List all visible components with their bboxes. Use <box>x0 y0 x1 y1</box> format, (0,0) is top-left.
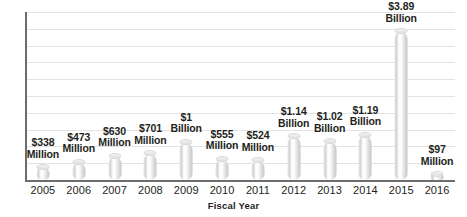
bar[interactable] <box>108 156 121 180</box>
bar-value-amount: $1.19 <box>350 105 381 117</box>
bar-value-amount: $1.14 <box>278 106 309 118</box>
bar-value-label: $701Million <box>134 123 167 146</box>
bar-value-unit: Billion <box>278 118 309 130</box>
x-tick-label: 2015 <box>384 184 418 196</box>
bar-value-unit: Billion <box>171 123 202 135</box>
x-axis-tick-labels: 2005200620072008200920102011201220132014… <box>25 184 455 200</box>
bar[interactable] <box>323 141 336 180</box>
bar-value-amount: $3.89 <box>386 1 417 13</box>
bar-value-label: $338Million <box>27 137 60 160</box>
bar-value-label: $473Million <box>62 132 95 155</box>
bar-group[interactable]: $473Million <box>62 12 96 180</box>
bar-value-amount: $1 <box>171 112 202 124</box>
y-axis-line <box>25 12 27 181</box>
bar-group[interactable]: $1.14Billion <box>277 12 311 180</box>
bar[interactable] <box>144 153 157 180</box>
bar-value-unit: Billion <box>314 123 345 135</box>
bar-group[interactable]: $1Billion <box>169 12 203 180</box>
bar-value-label: $3.89Billion <box>386 1 417 24</box>
bar-value-amount: $1.02 <box>314 111 345 123</box>
bar-value-label: $1.19Billion <box>350 105 381 128</box>
bar-value-amount: $630 <box>98 126 131 138</box>
bar-group[interactable]: $524Million <box>241 12 275 180</box>
bar-value-amount: $473 <box>62 132 95 144</box>
bar-value-unit: Million <box>134 135 167 147</box>
x-tick-label: 2012 <box>277 184 311 196</box>
bar-value-amount: $338 <box>27 137 60 149</box>
bar-value-label: $1Billion <box>171 112 202 135</box>
bar[interactable] <box>216 159 229 180</box>
bar[interactable] <box>359 135 372 180</box>
bar-group[interactable]: $555Million <box>205 12 239 180</box>
bar[interactable] <box>395 31 408 180</box>
x-tick-label: 2011 <box>241 184 275 196</box>
x-axis-title: Fiscal Year <box>0 200 467 211</box>
bar-value-label: $1.14Billion <box>278 106 309 129</box>
bar-value-label: $555Million <box>206 129 239 152</box>
bar[interactable] <box>251 160 264 180</box>
bar-chart: $338Million$473Million$630Million$701Mil… <box>0 0 467 217</box>
bar-value-label: $1.02Billion <box>314 111 345 134</box>
bar-group[interactable]: $1.19Billion <box>348 12 382 180</box>
bar-value-unit: Million <box>98 137 131 149</box>
bar-value-unit: Million <box>421 156 454 168</box>
bar-group[interactable]: $97Million <box>420 12 454 180</box>
bar[interactable] <box>180 142 193 180</box>
bar-value-unit: Million <box>62 143 95 155</box>
bar-value-amount: $555 <box>206 129 239 141</box>
x-tick-label: 2008 <box>133 184 167 196</box>
x-tick-label: 2005 <box>26 184 60 196</box>
x-tick-label: 2013 <box>313 184 347 196</box>
bar-value-amount: $97 <box>421 144 454 156</box>
bar[interactable] <box>72 162 85 180</box>
bar-value-unit: Billion <box>350 116 381 128</box>
plot-area: $338Million$473Million$630Million$701Mil… <box>25 12 455 180</box>
x-tick-label: 2009 <box>169 184 203 196</box>
bar[interactable] <box>36 167 49 180</box>
bar-value-amount: $524 <box>242 130 275 142</box>
bar-value-label: $524Million <box>242 130 275 153</box>
bar-group[interactable]: $630Million <box>98 12 132 180</box>
x-tick-label: 2010 <box>205 184 239 196</box>
bar-value-amount: $701 <box>134 123 167 135</box>
x-tick-label: 2007 <box>98 184 132 196</box>
x-tick-label: 2016 <box>420 184 454 196</box>
bar-group[interactable]: $338Million <box>26 12 60 180</box>
x-tick-label: 2014 <box>348 184 382 196</box>
bar-value-unit: Billion <box>386 13 417 25</box>
bar-value-label: $630Million <box>98 126 131 149</box>
bar-value-unit: Million <box>242 142 275 154</box>
bar-group[interactable]: $3.89Billion <box>384 12 418 180</box>
bar-value-unit: Million <box>27 149 60 161</box>
x-axis-line <box>25 180 455 182</box>
bar-value-label: $97Million <box>421 144 454 167</box>
bar-value-unit: Million <box>206 140 239 152</box>
x-tick-label: 2006 <box>62 184 96 196</box>
bar-group[interactable]: $1.02Billion <box>313 12 347 180</box>
bar-group[interactable]: $701Million <box>133 12 167 180</box>
bar[interactable] <box>287 136 300 180</box>
